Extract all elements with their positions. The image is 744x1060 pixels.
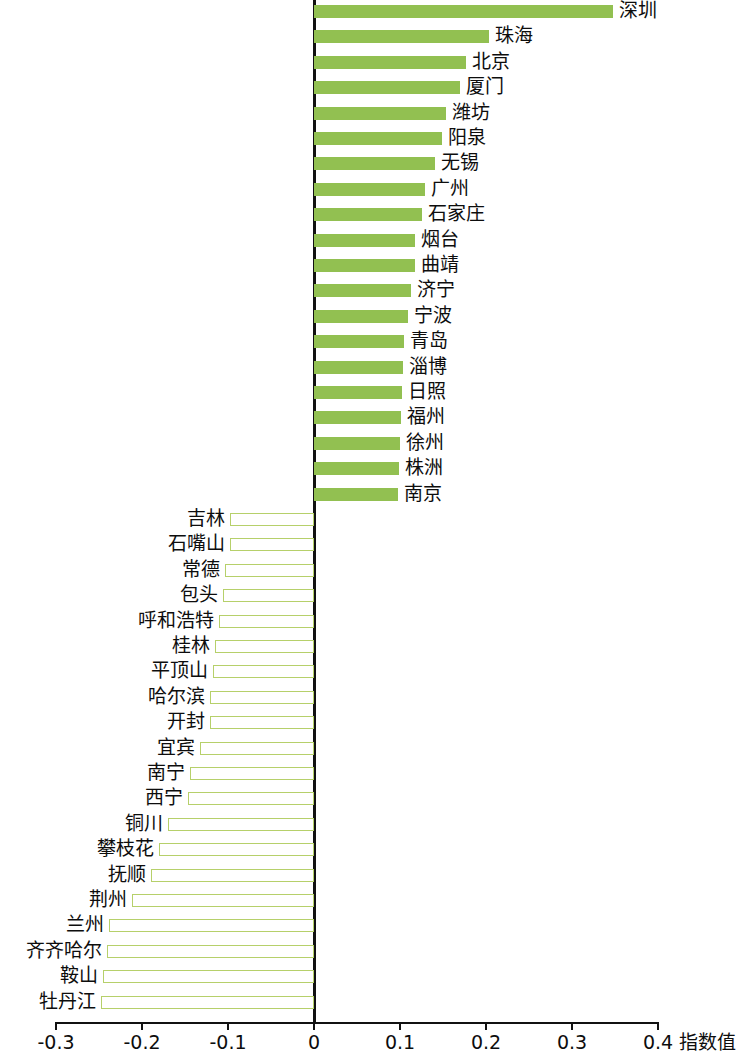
bar-category-label: 宜宾	[157, 736, 195, 758]
bar-category-label: 株洲	[405, 456, 443, 478]
bar-negative	[109, 919, 314, 932]
bar-row: 荆州	[0, 892, 744, 910]
bar-positive	[314, 259, 415, 272]
bar-category-label: 南京	[404, 482, 442, 504]
bar-row: 福州	[0, 409, 744, 427]
bar-category-label: 深圳	[619, 0, 657, 21]
bar-category-label: 石嘴山	[168, 532, 225, 554]
bar-category-label: 开封	[167, 710, 205, 732]
bar-positive	[314, 157, 435, 170]
bar-row: 吉林	[0, 511, 744, 529]
bar-row: 济宁	[0, 282, 744, 300]
bar-row: 烟台	[0, 232, 744, 250]
bar-row: 南宁	[0, 765, 744, 783]
bar-category-label: 牡丹江	[39, 990, 96, 1012]
bar-category-label: 北京	[472, 50, 510, 72]
bar-category-label: 齐齐哈尔	[26, 939, 102, 961]
bar-row: 北京	[0, 54, 744, 72]
bar-row: 南京	[0, 486, 744, 504]
bar-row: 珠海	[0, 28, 744, 46]
bar-row: 日照	[0, 384, 744, 402]
bar-row: 阳泉	[0, 130, 744, 148]
x-axis-tick	[657, 1022, 659, 1030]
x-axis-tick	[571, 1022, 573, 1030]
bar-row: 株洲	[0, 460, 744, 478]
bar-positive	[314, 488, 398, 501]
x-axis-line	[56, 1022, 658, 1024]
bar-category-label: 荆州	[89, 888, 127, 910]
bar-category-label: 无锡	[441, 151, 479, 173]
bar-category-label: 抚顺	[108, 863, 146, 885]
bar-row: 徐州	[0, 435, 744, 453]
bar-category-label: 青岛	[410, 329, 448, 351]
x-axis-tick-label: 0.4	[643, 1031, 673, 1053]
bar-category-label: 日照	[408, 380, 446, 402]
bar-positive	[314, 310, 408, 323]
bar-category-label: 潍坊	[452, 101, 490, 123]
bar-row: 常德	[0, 562, 744, 580]
bar-row: 攀枝花	[0, 841, 744, 859]
bar-category-label: 兰州	[66, 913, 104, 935]
bar-category-label: 淄博	[409, 355, 447, 377]
bar-category-label: 哈尔滨	[148, 685, 205, 707]
bar-row: 兰州	[0, 917, 744, 935]
bar-row: 曲靖	[0, 257, 744, 275]
bar-positive	[314, 284, 411, 297]
bar-row: 呼和浩特	[0, 613, 744, 631]
x-axis-tick	[55, 1022, 57, 1030]
bar-row: 西宁	[0, 790, 744, 808]
bar-positive	[314, 335, 404, 348]
bar-negative	[159, 843, 314, 856]
bar-category-label: 宁波	[414, 304, 452, 326]
bar-category-label: 厦门	[466, 75, 504, 97]
bar-category-label: 珠海	[495, 24, 533, 46]
bar-positive	[314, 437, 400, 450]
bar-negative	[151, 869, 314, 882]
x-axis-tick	[485, 1022, 487, 1030]
bar-positive	[314, 30, 489, 43]
bar-positive	[314, 5, 613, 18]
bar-category-label: 曲靖	[421, 253, 459, 275]
bar-negative	[215, 640, 314, 653]
bar-negative	[219, 615, 314, 628]
x-axis-title: 指数值	[679, 1031, 736, 1053]
bar-negative	[168, 818, 314, 831]
bar-positive	[314, 411, 401, 424]
x-axis-tick-label: 0.3	[557, 1031, 587, 1053]
bar-negative	[103, 970, 314, 983]
x-axis-tick	[141, 1022, 143, 1030]
bar-row: 包头	[0, 587, 744, 605]
bar-category-label: 烟台	[421, 228, 459, 250]
bar-positive	[314, 107, 446, 120]
x-axis-tick	[313, 1022, 315, 1030]
bar-category-label: 阳泉	[448, 126, 486, 148]
bar-positive	[314, 81, 460, 94]
bar-negative	[188, 792, 314, 805]
bar-row: 石嘴山	[0, 536, 744, 554]
bar-category-label: 铜川	[125, 812, 163, 834]
bar-row: 广州	[0, 181, 744, 199]
bar-positive	[314, 462, 399, 475]
bar-row: 深圳	[0, 3, 744, 21]
bar-category-label: 常德	[182, 558, 220, 580]
bar-negative	[223, 589, 314, 602]
bar-positive	[314, 234, 415, 247]
bar-positive	[314, 386, 402, 399]
x-axis-tick-label: -0.3	[37, 1031, 74, 1053]
bar-negative	[200, 742, 314, 755]
bar-row: 宁波	[0, 308, 744, 326]
bar-negative	[190, 767, 314, 780]
bar-positive	[314, 132, 442, 145]
bar-negative	[230, 513, 314, 526]
bar-row: 平顶山	[0, 663, 744, 681]
bar-row: 无锡	[0, 155, 744, 173]
bar-negative	[210, 691, 314, 704]
bar-negative	[107, 945, 314, 958]
bar-row: 牡丹江	[0, 994, 744, 1012]
bar-positive	[314, 361, 403, 374]
x-axis-tick	[399, 1022, 401, 1030]
bar-category-label: 包头	[180, 583, 218, 605]
bar-row: 厦门	[0, 79, 744, 97]
bar-category-label: 石家庄	[428, 202, 485, 224]
bar-negative	[225, 564, 314, 577]
